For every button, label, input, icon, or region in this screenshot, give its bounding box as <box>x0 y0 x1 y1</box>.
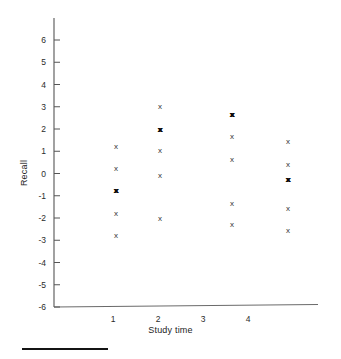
y-axis-tick-label: -5 <box>24 281 46 290</box>
data-point-marker: x <box>283 205 293 213</box>
y-axis-tick-label: -6 <box>24 303 46 312</box>
y-axis-tick-label: 6 <box>24 36 46 45</box>
data-point-marker: x <box>227 111 237 119</box>
y-axis-tick-label: 3 <box>24 103 46 112</box>
data-point-marker: x <box>111 210 121 218</box>
x-axis-tick-label: 1 <box>103 315 123 324</box>
data-point-marker: x <box>111 143 121 151</box>
data-point-marker: x <box>283 138 293 146</box>
data-point-marker: x <box>283 161 293 169</box>
y-axis-tick-label: 4 <box>24 81 46 90</box>
data-point-marker: x <box>227 156 237 164</box>
y-axis-tick-label: -2 <box>24 214 46 223</box>
y-axis-tick-label: -4 <box>24 259 46 268</box>
data-point-marker: x <box>283 227 293 235</box>
data-point-marker: x <box>155 126 165 134</box>
data-point-marker: x <box>111 165 121 173</box>
data-point-marker: x <box>111 187 121 195</box>
data-point-marker: x <box>155 172 165 180</box>
data-point-marker: x <box>227 221 237 229</box>
y-axis-tick-label: 2 <box>24 125 46 134</box>
x-axis-tick-label: 2 <box>148 315 168 324</box>
x-axis-line <box>54 305 318 308</box>
footer-rule <box>22 348 108 350</box>
data-point-marker: x <box>155 103 165 111</box>
data-point-marker: x <box>155 215 165 223</box>
x-axis-title: Study time <box>0 325 341 335</box>
scatter-plot-figure: -6-5-4-3-2-10123456 1234 xxxxxxxxxxxxxxx… <box>0 0 341 359</box>
data-point-marker: x <box>227 133 237 141</box>
data-point-marker: x <box>283 176 293 184</box>
y-axis-tick-label: 5 <box>24 58 46 67</box>
x-axis-tick-label: 3 <box>193 315 213 324</box>
y-axis-title: Recall <box>19 143 29 203</box>
y-axis-tick-label: -3 <box>24 236 46 245</box>
data-point-marker: x <box>227 200 237 208</box>
data-point-marker: x <box>155 147 165 155</box>
data-point-marker: x <box>111 232 121 240</box>
y-axis-tick-marks <box>54 40 60 307</box>
x-axis-tick-label: 4 <box>238 315 258 324</box>
